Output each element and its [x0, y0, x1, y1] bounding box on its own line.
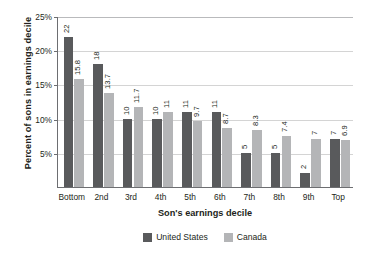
bar[interactable]: 11 — [163, 112, 173, 187]
legend-label: United States — [156, 232, 208, 242]
y-axis-tick-label: 10% — [35, 115, 52, 125]
x-axis-tick-label: 7th — [235, 192, 265, 202]
legend-item[interactable]: Canada — [224, 232, 267, 242]
plot-area: 5%10%15%20%25% 2215.81813.71011.71011119… — [57, 17, 353, 188]
bar-value-label: 9.7 — [192, 106, 201, 117]
bar-value-label: 7.4 — [281, 122, 290, 133]
bar-chart: Percent of sons in earnings decile 5%10%… — [0, 0, 365, 265]
x-axis-tick-label: Top — [323, 192, 353, 202]
bar[interactable]: 9.7 — [193, 121, 203, 187]
bar-value-label: 6.9 — [340, 125, 349, 136]
legend-item[interactable]: United States — [143, 232, 208, 242]
bar-value-label: 18 — [92, 51, 101, 60]
bar-group: 58.3 — [237, 17, 267, 187]
bar-group: 2215.8 — [59, 17, 89, 187]
bar[interactable]: 15.8 — [74, 79, 84, 187]
bar[interactable]: 2 — [300, 173, 310, 187]
x-axis-tick-label: 4th — [146, 192, 176, 202]
bar-value-label: 8.7 — [222, 113, 231, 124]
bar[interactable]: 10 — [123, 119, 133, 187]
y-axis-tick — [54, 120, 58, 121]
bar-value-label: 11.7 — [133, 88, 142, 103]
x-axis-tick-label: Bottom — [57, 192, 87, 202]
bar-value-label: 11 — [162, 100, 171, 108]
y-axis-tick — [54, 17, 58, 18]
x-axis-tick-label: 8th — [264, 192, 294, 202]
bar-value-label: 8.3 — [251, 115, 260, 126]
bar[interactable]: 7 — [311, 139, 321, 187]
bar-group: 57.4 — [266, 17, 296, 187]
bar-value-label: 11 — [181, 100, 190, 108]
x-axis-tick-label: 2nd — [87, 192, 117, 202]
bar-group: 1813.7 — [89, 17, 119, 187]
bar-value-label: 10 — [152, 106, 161, 115]
bar-value-label: 2 — [300, 165, 309, 169]
legend-swatch-icon — [224, 233, 233, 242]
bar[interactable]: 22 — [64, 37, 74, 187]
legend-swatch-icon — [143, 233, 152, 242]
bar[interactable]: 8.7 — [222, 128, 232, 188]
y-axis-tick-label: 15% — [35, 80, 52, 90]
y-axis-tick — [54, 51, 58, 52]
bars-layer: 2215.81813.71011.71011119.7118.758.357.4… — [59, 17, 353, 187]
bar-value-label: 13.7 — [103, 74, 112, 89]
bar[interactable]: 13.7 — [104, 93, 114, 187]
x-axis-tick-label: 6th — [205, 192, 235, 202]
bar[interactable]: 6.9 — [341, 140, 351, 187]
bar-value-label: 15.8 — [74, 60, 83, 75]
x-axis-title: Son's earnings decile — [57, 208, 353, 218]
y-axis-tick — [54, 154, 58, 155]
bar-value-label: 7 — [329, 131, 338, 135]
bar[interactable]: 11.7 — [134, 107, 144, 187]
chart-legend: United StatesCanada — [57, 232, 353, 242]
bar[interactable]: 7.4 — [282, 136, 292, 187]
bar-group: 1011.7 — [118, 17, 148, 187]
bar[interactable]: 11 — [182, 112, 192, 187]
bar[interactable]: 11 — [212, 112, 222, 187]
bar[interactable]: 18 — [93, 64, 103, 187]
bar-value-label: 11 — [211, 100, 220, 108]
bar[interactable]: 10 — [152, 119, 162, 187]
bar-value-label: 22 — [63, 24, 72, 33]
y-axis-tick — [54, 85, 58, 86]
bar-group: 119.7 — [177, 17, 207, 187]
bar-value-label: 7 — [310, 131, 319, 135]
bar-group: 76.9 — [325, 17, 355, 187]
bar-value-label: 5 — [270, 144, 279, 148]
x-axis-tick-label: 5th — [175, 192, 205, 202]
bar-group: 1011 — [148, 17, 178, 187]
x-axis-tick-label: 3rd — [116, 192, 146, 202]
bar[interactable]: 5 — [271, 153, 281, 187]
bar-group: 118.7 — [207, 17, 237, 187]
legend-label: Canada — [237, 232, 267, 242]
bar-group: 27 — [296, 17, 326, 187]
bar-value-label: 5 — [240, 144, 249, 148]
y-axis-tick-label: 25% — [35, 12, 52, 22]
bar[interactable]: 7 — [330, 139, 340, 187]
x-axis-tick-label: 9th — [294, 192, 324, 202]
bar[interactable]: 8.3 — [252, 130, 262, 187]
bar[interactable]: 5 — [241, 153, 251, 187]
y-axis-tick-label: 20% — [35, 46, 52, 56]
y-axis-title: Percent of sons in earnings decile — [23, 3, 33, 183]
y-axis-tick-label: 5% — [40, 149, 52, 159]
bar-value-label: 10 — [122, 106, 131, 115]
